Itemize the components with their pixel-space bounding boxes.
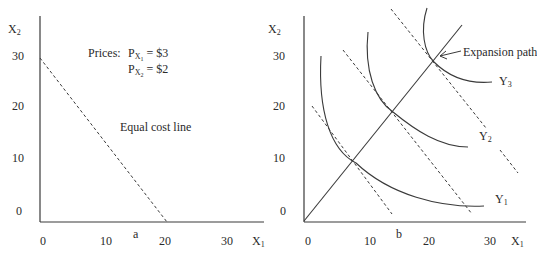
panel-b-caption: b [396, 228, 402, 240]
isoquant-y2-label: Y2 [479, 130, 492, 144]
panel-b-x-axis-label: X1 [511, 235, 524, 249]
isocost-line-4 [500, 150, 518, 173]
isoquant-y3-label: Y3 [499, 75, 512, 89]
panel-b-x-tick-10: 10 [364, 235, 376, 247]
expansion-path-arrow [440, 51, 461, 59]
equal-cost-line [40, 58, 167, 222]
isoquants [321, 8, 492, 206]
isoquant-y2 [367, 32, 468, 147]
panel-a-x-tick-0: 0 [40, 235, 46, 247]
panel-a-y-tick-20: 20 [12, 100, 24, 112]
price-x1: PX1 = $3 [128, 47, 168, 62]
panel-a-y-tick-30: 30 [12, 50, 24, 62]
panel-a-y-axis-label: X2 [8, 23, 21, 37]
panel-b-y-tick-20: 20 [273, 100, 285, 112]
panel-b-x-tick-0: 0 [305, 235, 311, 247]
panel-a-x-axis-label: X1 [252, 235, 265, 249]
expansion-path-label: Expansion path [463, 46, 537, 58]
panel-b-y-tick-30: 30 [273, 50, 285, 62]
panel-b-y-tick-0: 0 [280, 205, 286, 217]
panel-a-x-tick-30: 30 [221, 235, 233, 247]
panel-a-y-tick-10: 10 [12, 152, 24, 164]
panel-b-y-axis-label: X2 [268, 23, 281, 37]
panel-a-x-tick-20: 20 [159, 235, 171, 247]
expansion-path-line [304, 25, 462, 221]
isoquant-y1-label: Y1 [495, 193, 508, 207]
prices-title: Prices: [88, 47, 121, 59]
isocost-line-3 [391, 9, 486, 128]
panel-a-y-tick-0: 0 [16, 205, 22, 217]
equal-cost-line-label: Equal cost line [120, 121, 191, 133]
isocost-lines [312, 9, 518, 214]
price-x2: PX2 = $2 [128, 63, 168, 78]
isocost-line-2 [343, 50, 472, 214]
isocost-line-1 [312, 106, 392, 214]
panel-b-y-tick-10: 10 [273, 152, 285, 164]
panel-a-caption: a [133, 228, 138, 240]
panel-b-x-tick-30: 30 [484, 235, 496, 247]
panel-b-x-tick-20: 20 [423, 235, 435, 247]
panel-a-x-tick-10: 10 [100, 235, 112, 247]
